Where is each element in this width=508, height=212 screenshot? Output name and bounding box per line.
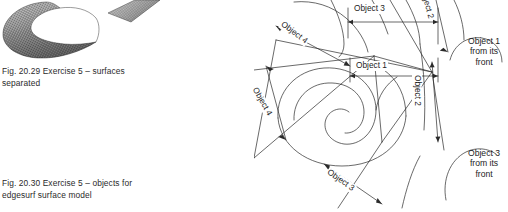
mesh-surface-small xyxy=(108,0,160,22)
figure-20-30: Object 3 Object 1 Object 4 Object 4 Obje… xyxy=(254,0,508,212)
textbook-page: Fig. 20.29 Exercise 5 – surfaces separat… xyxy=(0,0,508,212)
mesh-surface-render xyxy=(0,0,180,62)
dimension-object-2-mid xyxy=(430,62,441,142)
label-object-2-mid: Object 2 xyxy=(412,74,422,107)
mesh-surface-large xyxy=(3,2,99,58)
label-object-3-top: Object 3 xyxy=(353,4,386,14)
figure-20-29: Fig. 20.29 Exercise 5 – surfaces separat… xyxy=(0,0,254,212)
scroll-outline xyxy=(278,68,406,166)
label-object-1-mid: Object 1 xyxy=(355,61,388,71)
figure-caption-20-30: Fig. 20.30 Exercise 5 – objects for edge… xyxy=(2,178,167,201)
figure-caption-20-29: Fig. 20.29 Exercise 5 – surfaces separat… xyxy=(2,66,152,89)
label-object-3-front-view: Object 3 from its front xyxy=(460,148,508,179)
label-object-1-front-view: Object 1 from its front xyxy=(460,36,508,67)
lower-right-curve xyxy=(402,44,425,208)
